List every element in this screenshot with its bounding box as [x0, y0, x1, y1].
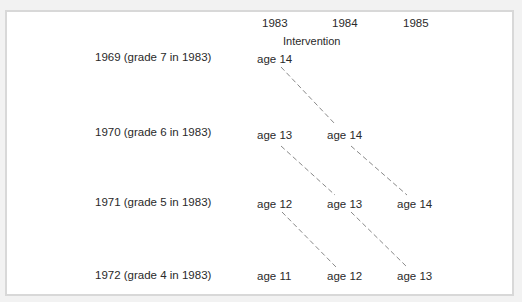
connector-1971-1984-to-1972-1985 [351, 212, 407, 267]
connector-1971-1983-to-1972-1984 [282, 212, 336, 267]
connector-1970-1984-to-1971-1985 [351, 146, 407, 195]
connector-1970-1983-to-1971-1984 [281, 146, 335, 195]
cohort-connector-lines [0, 0, 522, 302]
connector-1969-to-1970 [281, 67, 335, 124]
